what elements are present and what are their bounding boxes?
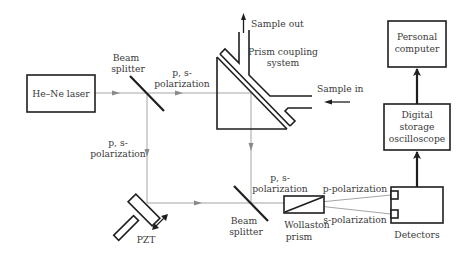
beam-arrow-icon — [175, 91, 183, 96]
s-detector — [391, 210, 398, 218]
computer-box: Personal computer — [388, 21, 446, 67]
oscilloscope-label-line3: oscilloscope — [389, 133, 445, 144]
s-polarization-label: s-polarization — [323, 214, 386, 225]
beam-splitter-1-label-line2: splitter — [111, 63, 145, 74]
detectors-label: Detectors — [394, 229, 440, 240]
beam-arrow-icon — [249, 143, 254, 151]
flow-cell-outlet-left-wall — [220, 32, 239, 63]
oscilloscope-label-line2: storage — [399, 121, 434, 132]
flow-cell-lower-wall — [285, 108, 312, 126]
prism-coupling-system: Sample out Prism coupling system Sample … — [217, 13, 364, 129]
beam-splitter-2-label-line1: Beam — [231, 215, 258, 226]
p-detector — [391, 191, 398, 199]
sample-in-label: Sample in — [317, 83, 364, 94]
computer-label-line2: computer — [395, 43, 440, 54]
pzt-mirror: PZT — [114, 194, 168, 245]
polarization-label-mid-line1: p, s- — [270, 172, 290, 183]
pzt-mirror-stem — [114, 216, 139, 241]
laser-box: He–Ne laser — [27, 75, 95, 112]
oscilloscope-box: Digital storage oscilloscope — [384, 104, 450, 150]
polarization-label-top-line1: p, s- — [172, 67, 192, 78]
polarization-label-mid-line2: polarization — [252, 183, 308, 194]
polarization-label-left-line2: polarization — [90, 148, 146, 159]
beam-arrow-icon — [194, 201, 202, 206]
polarization-label-left-line1: p, s- — [108, 137, 128, 148]
beam-splitter-2-label-line2: splitter — [229, 226, 263, 237]
beam-splitter-1-label-line1: Beam — [113, 52, 140, 63]
p-polarization-label: p-polarization — [323, 183, 388, 194]
sample-out-label: Sample out — [251, 18, 304, 29]
polarization-label-top-line2: polarization — [154, 78, 210, 89]
pzt-label: PZT — [137, 234, 157, 245]
prism-system-label-line2: system — [267, 57, 300, 68]
detectors: Detectors — [391, 187, 443, 240]
optical-setup-diagram: He–Ne laser Beam splitter p, s- polariza… — [0, 0, 474, 256]
arrow-up-icon — [241, 13, 246, 20]
beam-arrow-icon — [112, 91, 120, 96]
arrow-left-icon — [324, 100, 332, 105]
oscilloscope-label-line1: Digital — [401, 109, 432, 120]
wollaston-label-line2: prism — [286, 231, 313, 242]
computer-label-line1: Personal — [397, 31, 437, 42]
laser-label: He–Ne laser — [32, 88, 90, 99]
prism-system-label-line1: Prism coupling — [248, 46, 318, 57]
